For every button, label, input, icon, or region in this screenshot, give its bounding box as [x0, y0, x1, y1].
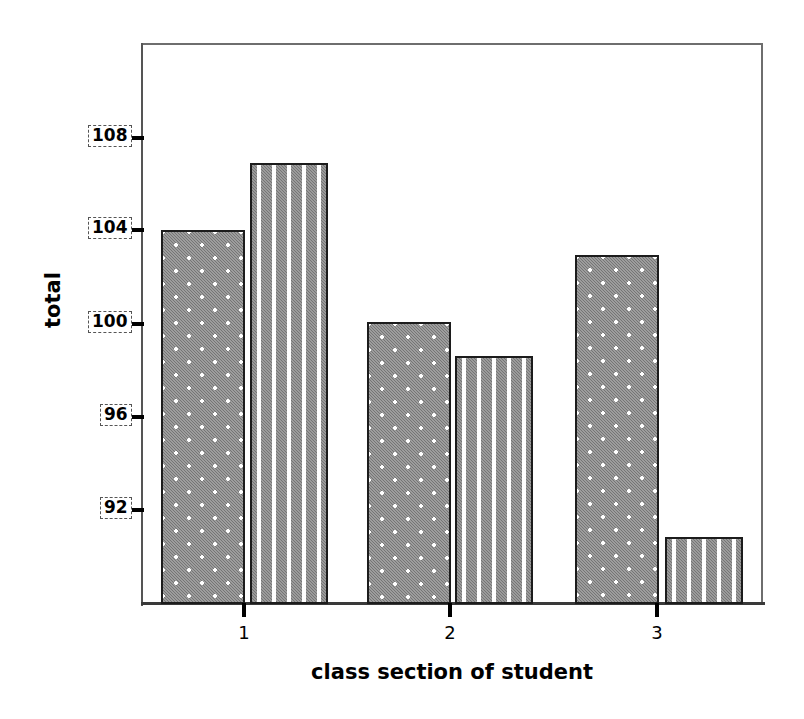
x-tick-label-1[interactable]: 1 [224, 622, 264, 643]
x-tick-mark-3 [655, 603, 659, 617]
bar-section2-stripes[interactable] [455, 356, 533, 604]
bar-section1-dots[interactable] [161, 230, 245, 604]
y-tick-mark-92 [130, 508, 144, 512]
bar-chart: total 108 104 100 96 92 1 2 3 class sect… [0, 0, 804, 719]
bar-section3-dots[interactable] [575, 255, 659, 604]
x-tick-mark-1 [242, 603, 246, 617]
bar-section2-dots[interactable] [367, 322, 451, 604]
y-axis-title: total [41, 255, 65, 345]
x-tick-mark-2 [448, 603, 452, 617]
y-tick-label-96[interactable]: 96 [100, 404, 132, 426]
bar-section3-stripes[interactable] [665, 537, 743, 604]
y-tick-label-100[interactable]: 100 [88, 311, 132, 333]
y-tick-mark-104 [130, 228, 144, 232]
y-tick-mark-100 [130, 322, 144, 326]
y-tick-mark-108 [130, 136, 144, 140]
x-axis-title: class section of student [141, 660, 763, 684]
x-tick-label-2[interactable]: 2 [430, 622, 470, 643]
y-tick-label-108[interactable]: 108 [88, 125, 132, 147]
y-tick-label-104[interactable]: 104 [88, 217, 132, 239]
y-tick-label-92[interactable]: 92 [100, 497, 132, 519]
bar-section1-stripes[interactable] [250, 163, 328, 604]
y-tick-mark-96 [130, 415, 144, 419]
x-tick-label-3[interactable]: 3 [637, 622, 677, 643]
